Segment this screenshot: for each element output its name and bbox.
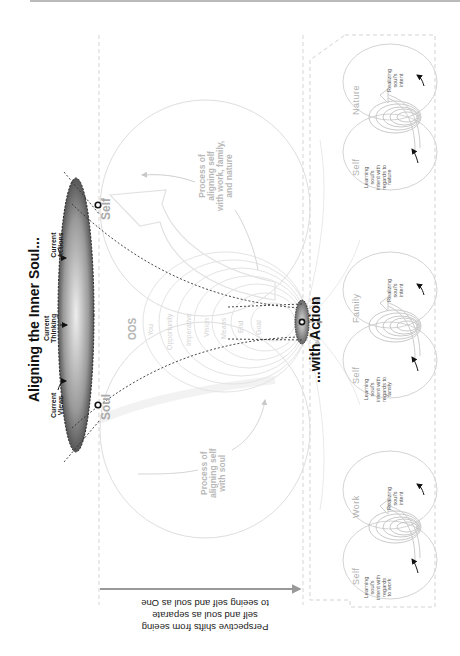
oos-ring-you: You (147, 324, 154, 336)
venn-nature-realizing: Realizing soul's intent (387, 69, 405, 92)
perspective-caption: Perspective shifts from seeing self and … (110, 597, 300, 633)
oos-ring-opportunity: Opportunity (166, 314, 173, 350)
perspective-line-1: Perspective shifts from seeing (110, 621, 300, 633)
venn-family-realizing: Realizing soul's intent (387, 279, 405, 302)
self-label: Self (100, 198, 113, 220)
main-title: Aligning the Inner Soul... (27, 237, 42, 402)
oos-ring-imperative: Imperative (185, 313, 192, 346)
venn-nature-other-label: Nature (352, 85, 361, 115)
current-views-label: Current Views (50, 393, 65, 418)
venn-family-learning: Learning soul's intent with regards to f… (364, 377, 393, 402)
venn-work-realizing: Realizing soul's intent (387, 487, 405, 510)
diagram-graphics (0, 0, 460, 656)
current-thinking-label: Current Thinking (43, 314, 58, 343)
venn-family-other-label: Family (352, 294, 361, 324)
oos-ring-end: End (237, 321, 244, 333)
venn-family-self-label: Self (352, 366, 361, 384)
venn-nature-self-label: Self (352, 158, 361, 176)
action-title: ...with Action (308, 296, 323, 383)
process-soul-label: Process of aligning self with soul (200, 448, 227, 498)
perspective-line-3: to seeing self and soul as One (110, 597, 300, 609)
oos-ring-means: Means (220, 318, 227, 339)
venn-work-learning: Learning soul's intent with regards to w… (364, 575, 393, 600)
diagram-stage: Aligning the Inner Soul... ...with Actio… (0, 0, 460, 656)
perspective-line-2: self and soul as separate (110, 609, 300, 621)
venn-nature-learning: Learning soul's intent with regards to n… (364, 165, 393, 190)
soul-circle (100, 322, 310, 538)
process-work-family-nature-label: Process of aligning self with work, fami… (198, 141, 234, 211)
oos-ring-vision: Vision (203, 318, 210, 337)
oos-ring-goal: Goal (255, 320, 262, 335)
venn-work-other-label: Work (352, 495, 361, 518)
current-actions-label: Current Actions (50, 232, 65, 258)
oos-label: OOS (128, 318, 139, 340)
venn-work-self-label: Self (352, 567, 361, 585)
soul-label: Soul (100, 394, 113, 420)
